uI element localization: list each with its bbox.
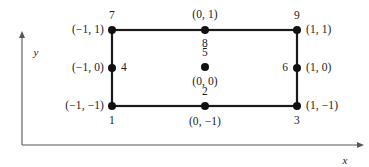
element-node-diagram: 1(−1, −1)2(0, −1)3(1, −1)4(−1, 0)5(0, 0)… — [0, 0, 369, 167]
node-coordinate-label-2: (0, −1) — [189, 116, 221, 128]
node-coordinate-label-9: (1, 1) — [306, 24, 332, 36]
node-dot-4[interactable] — [108, 64, 116, 72]
node-coordinate-label-6: (1, 0) — [306, 62, 332, 74]
node-coordinate-label-7: (−1, 1) — [72, 24, 104, 36]
node-number-label-4: 4 — [121, 62, 127, 74]
y-axis-arrowhead — [19, 31, 25, 38]
node-dot-7[interactable] — [108, 26, 116, 34]
node-dot-5[interactable] — [201, 63, 209, 71]
node-coordinate-label-3: (1, −1) — [306, 100, 338, 112]
node-number-label-8: 8 — [202, 38, 208, 50]
node-coordinate-label-5: (0, 0) — [192, 76, 218, 88]
node-number-label-1: 1 — [109, 115, 115, 127]
node-dot-3[interactable] — [293, 102, 301, 110]
node-dot-2[interactable] — [201, 102, 209, 110]
node-coordinate-label-4: (−1, 0) — [72, 62, 104, 74]
node-coordinate-label-8: (0, 1) — [192, 9, 218, 21]
node-number-label-9: 9 — [294, 10, 300, 22]
x-axis-label: x — [343, 155, 348, 166]
node-dot-1[interactable] — [108, 102, 116, 110]
node-number-label-6: 6 — [282, 62, 288, 74]
node-number-label-2: 2 — [202, 86, 208, 98]
node-number-label-7: 7 — [109, 10, 115, 22]
node-coordinate-label-1: (−1, −1) — [65, 100, 104, 112]
y-axis-label: y — [34, 47, 39, 58]
x-axis-arrowhead — [357, 142, 364, 148]
node-dot-8[interactable] — [201, 26, 209, 34]
node-number-label-3: 3 — [294, 115, 300, 127]
node-dot-9[interactable] — [293, 26, 301, 34]
node-dot-6[interactable] — [293, 64, 301, 72]
